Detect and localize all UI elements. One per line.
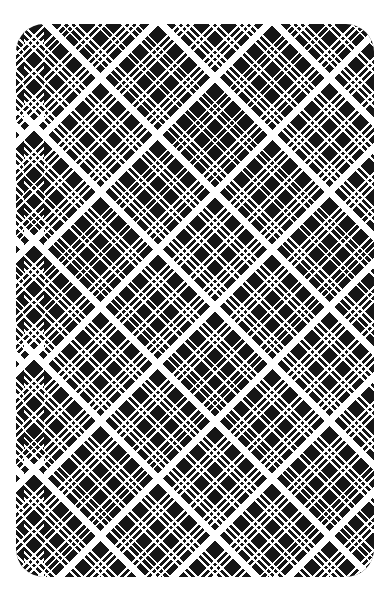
- diagonal-stripes-left: [16, 24, 374, 577]
- playing-card-back: playing card back: [16, 24, 374, 577]
